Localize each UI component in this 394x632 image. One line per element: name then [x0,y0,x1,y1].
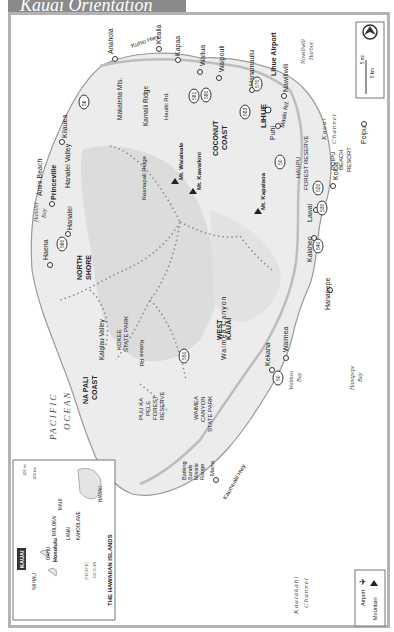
water-kaulakahi-1: Kaulakahi [292,576,300,615]
inset-label-kauai: KAUAI [19,550,25,568]
road-hauiki-rd: Hauiki Rd. [163,92,169,120]
water-kauai-channel-1: Kauai [320,118,328,141]
region-north-shore-1: NORTH [76,255,83,280]
inset-label-maui: MAUI [58,499,63,510]
water-hanalei-bay-1: Hanalei [33,202,39,223]
water-waimea-bay-2: Bay [296,372,302,382]
inset-ocean-2: OCEAN [92,561,97,578]
route-560: 560 [59,239,65,248]
town-kekaha: Kekaha [264,342,271,366]
mountain-kawaikini: Mt. Kawaikini [196,152,202,190]
inset-scale-km: 100 km [32,466,37,480]
route-581: 581 [191,91,197,100]
inset-label-kahoolawe: KAHOOLAWE [76,511,81,540]
feature-kamalii-ridge: Kamalii Ridge [142,86,150,126]
mountain-waialeale: Mt. Waialeale [178,142,184,180]
region-na-pali-1: NA PALI [82,377,89,404]
road-kaumualii-hwy: Kaumualii Hwy. [222,462,248,501]
inset-label-lanai: LANAI [66,527,71,540]
region-waimea-canyon-3: STATE PARK [207,396,213,432]
town-lihue-airport: Lihue Airport [270,32,278,76]
legend-airport-label: Airport [360,589,366,606]
water-hanapepe-bay-2: Bay [357,372,363,382]
town-anini-beach: Anini Beach [36,159,43,196]
legend-mountain-label: Mountain [372,597,378,620]
town-kilauea: Kilauea [61,115,68,138]
inset-scale-mi: 100 mi [22,464,27,476]
region-coconut-1: COCONUT [212,120,219,156]
route-540: 540 [315,241,321,250]
ocean-label-ocean: OCEAN [62,390,72,430]
region-puu-ka-pele-1: PUU KA [138,398,144,420]
town-lawai: Lawai [306,203,313,222]
ocean-label-pacific: PACIFIC [48,393,58,441]
inset-label-niihau: NIIHAU [31,573,37,590]
region-na-pali-2: COAST [91,375,98,400]
road-kokee-rd: Kokee Rd. [139,340,145,368]
inset-label-hawaii: HAWAII [98,486,103,502]
region-north-shore-2: SHORE [85,255,92,280]
route-520: 520 [315,183,321,192]
town-anahola: Anahola [107,28,114,54]
town-hanalei: Hanalei [66,206,73,230]
town-lihue: LIHUE [259,103,268,128]
scale-mi-label: 5 mi [360,55,365,64]
route-50: 50 [277,159,283,165]
water-hanalei-bay-2: Bay [41,208,47,218]
water-kaulakahi-2: Channel [302,577,310,608]
legend: Airport ✈ Mountain [355,570,385,626]
region-puu-ka-pele-2: PELE [145,401,151,416]
inset-label-oahu: OAHU [46,547,51,560]
region-kokee-2: STATE PARK [123,316,129,352]
town-princeville: Princeville [50,165,57,200]
compass-scale-box: 5 mi 5 km [356,22,384,98]
region-kokee-1: KOKEE [116,329,122,350]
water-kauai-channel-2: Channel [330,113,338,144]
town-poipu: Poipu [360,126,368,144]
water-nawiliwili-1: Nawiliwili [300,39,306,65]
feature-waimea-canyon: Waimea Canyon [220,296,228,361]
feature-hanalei-valley: Hanalei Valley [64,143,72,188]
route-50-west: 50 [275,375,281,381]
inset-label-molokai: MOLOKAI [52,515,57,536]
region-haupu-2: FOREST RESERVE [303,136,309,190]
water-hanapepe-bay-1: Hanapepe [349,365,355,391]
route-583: 583 [242,107,248,116]
route-580: 580 [203,90,209,99]
town-puhi: Puhi [269,126,276,140]
region-poipu-3: RESORT [346,147,352,172]
town-nawiliwili: Nawiliwili [282,63,289,92]
town-waimea: Waimea [282,326,289,352]
region-waimea-canyon-2: CANYON [200,396,206,422]
water-waimea-bay-1: Waimea [288,371,294,390]
route-550: 550 [181,351,187,360]
town-kapaa: Kapaa [174,36,182,56]
route-570: 570 [254,79,260,88]
town-mana: Mana [209,460,215,476]
kauai-map: THE HAWAIIAN ISLANDS NIIHAU KAUAI OAHU H… [0,0,394,632]
town-haena: Haena [42,239,49,260]
region-haupu-1: HAUPU [295,157,301,178]
region-puu-ka-pele-4: RESERVE [159,391,165,420]
water-nawiliwili-2: Harbor [308,41,314,61]
town-hanapepe: Hanapepe [324,278,332,310]
inset-title: THE HAWAIIAN ISLANDS [107,534,113,606]
inset-ocean-1: PACIFIC [84,561,89,581]
region-barking-4: Range [199,464,205,480]
region-coconut-2: COAST [221,125,228,150]
region-puu-ka-pele-3: FOREST [152,395,158,420]
airport-icon: ✈ [359,577,367,587]
feature-keanapali-ridge: Keanapali Ridge [141,155,147,200]
town-wailua: Wailua [199,45,206,66]
route-56: 56 [81,100,87,106]
feature-makaleha-mts: Makaleha Mts. [116,78,123,120]
town-waipouli: Waipouli [218,45,226,72]
region-waimea-canyon-1: WAIMEA [193,396,199,420]
route-530: 530 [319,203,325,212]
mountain-kapalaoa: Mt. Kapalaoa [260,172,266,210]
town-kalaheo: Kalaheo [306,236,313,262]
scale-km-label: 5 km [370,68,375,78]
inset-map: THE HAWAIIAN ISLANDS NIIHAU KAUAI OAHU H… [13,460,115,620]
inset-label-honolulu: Honolulu [52,538,58,562]
town-koloa: Koloa [332,162,339,180]
